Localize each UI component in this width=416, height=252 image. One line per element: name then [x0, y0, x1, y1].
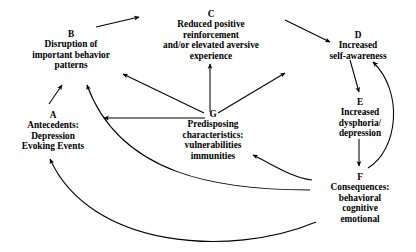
diagram-canvas: A Antecedents: Depression Evoking Events… [0, 0, 416, 252]
node-f-line-1: Consequences: [306, 182, 414, 192]
node-a-id: A [4, 110, 102, 120]
edge-f-to-a [50, 159, 316, 241]
node-c-line-3: and/or elevated aversive [142, 40, 280, 50]
node-b-line-1: Disruption of [12, 39, 130, 49]
node-g-line-2: characteristics: [152, 130, 274, 140]
node-f-line-2: behavioral [306, 193, 414, 203]
node-g-line-3: vulnerabilities [152, 140, 274, 150]
edge-g-to-d [218, 73, 285, 113]
node-e-dysphoria: E Increased dysphoria/ depression [312, 97, 408, 139]
node-b-line-3: patterns [12, 60, 130, 70]
edge-d-to-e [350, 60, 359, 92]
node-e-line-1: Increased [312, 107, 408, 117]
node-c-id: C [142, 9, 280, 19]
node-c-line-2: reinforcement [142, 30, 280, 40]
node-e-line-3: depression [312, 128, 408, 138]
node-e-line-2: dysphoria/ [312, 118, 408, 128]
node-a-line-3: Evoking Events [4, 141, 102, 151]
node-c-line-4: experience [142, 51, 280, 61]
edge-g-to-b [123, 74, 204, 113]
node-b-line-2: important behavior [12, 50, 130, 60]
node-g-id: G [152, 109, 274, 119]
node-c-line-1: Reduced positive [142, 19, 280, 29]
node-a-line-1: Antecedents: [4, 120, 102, 130]
node-a-antecedents: A Antecedents: Depression Evoking Events [4, 110, 102, 152]
node-g-predisposing: G Predisposing characteristics: vulnerab… [152, 109, 274, 161]
node-f-line-4: emotional [306, 214, 414, 224]
node-g-line-1: Predisposing [152, 119, 274, 129]
node-d-self-awareness: D Increased self-awareness [306, 30, 410, 61]
node-f-id: F [306, 172, 414, 182]
node-d-id: D [306, 30, 410, 40]
node-f-line-3: cognitive [306, 203, 414, 213]
node-d-line-1: Increased [306, 40, 410, 50]
node-d-line-2: self-awareness [306, 51, 410, 61]
node-b-id: B [12, 29, 130, 39]
node-e-id: E [312, 97, 408, 107]
node-f-consequences: F Consequences: behavioral cognitive emo… [306, 172, 414, 224]
edge-b-to-c [96, 17, 139, 27]
node-b-disruption: B Disruption of important behavior patte… [12, 29, 130, 71]
node-g-line-4: immunities [152, 151, 274, 161]
node-c-reduced-reinforcement: C Reduced positive reinforcement and/or … [142, 9, 280, 61]
node-a-line-2: Depression [4, 131, 102, 141]
edge-a-to-b [49, 85, 62, 104]
